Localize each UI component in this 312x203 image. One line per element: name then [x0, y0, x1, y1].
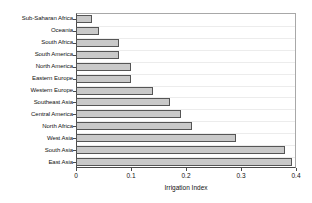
bar-row — [76, 75, 296, 83]
bar-row — [76, 87, 296, 95]
bar-row — [76, 98, 296, 106]
y-axis-label: Central America — [0, 111, 73, 118]
bar — [76, 75, 131, 83]
x-axis-tick-label: 0.3 — [226, 172, 256, 180]
y-axis-label: West Asia — [0, 135, 73, 142]
bar — [76, 134, 236, 142]
bar-row — [76, 134, 296, 142]
bar-row — [76, 51, 296, 59]
y-axis-label: South America — [0, 51, 73, 58]
bar — [76, 122, 192, 130]
x-axis-tick-label: 0.2 — [171, 172, 201, 180]
bar — [76, 110, 181, 118]
bar — [76, 51, 119, 59]
irrigation-index-bar-chart: Sub-Saharan AfricaOceaniaSouth AfricaSou… — [0, 0, 312, 203]
x-axis-tick-label: 0 — [61, 172, 91, 180]
y-axis-label: Southeast Asia — [0, 99, 73, 106]
bar — [76, 87, 153, 95]
bar — [76, 39, 119, 47]
bar-row — [76, 110, 296, 118]
bar-row — [76, 15, 296, 23]
x-axis-tick-label: 0.4 — [281, 172, 311, 180]
y-axis-label: Oceania — [0, 27, 73, 34]
y-axis-label: East Asia — [0, 159, 73, 166]
bar — [76, 98, 170, 106]
x-axis-tick — [131, 168, 132, 171]
x-axis-title: Irrigation Index — [76, 184, 296, 192]
bars-layer — [76, 13, 296, 168]
bar — [76, 63, 131, 71]
bar-row — [76, 27, 296, 35]
x-axis: Irrigation Index 00.10.20.30.4 — [0, 168, 312, 203]
bar-row — [76, 122, 296, 130]
bar-row — [76, 158, 296, 166]
y-axis-label: South Africa — [0, 39, 73, 46]
y-axis-label: North Africa — [0, 123, 73, 130]
y-axis-label: South Asia — [0, 147, 73, 154]
bar — [76, 15, 92, 23]
bar — [76, 158, 292, 166]
bar — [76, 146, 285, 154]
y-axis-category-labels: Sub-Saharan AfricaOceaniaSouth AfricaSou… — [0, 13, 73, 168]
bar — [76, 27, 99, 35]
bar-row — [76, 146, 296, 154]
x-axis-tick — [76, 168, 77, 171]
bar-row — [76, 63, 296, 71]
x-axis-tick — [241, 168, 242, 171]
y-axis-label: North America — [0, 63, 73, 70]
y-axis-label: Western Europe — [0, 87, 73, 94]
bar-row — [76, 39, 296, 47]
y-axis-label: Eastern Europe — [0, 75, 73, 82]
y-axis-label: Sub-Saharan Africa — [0, 15, 73, 22]
x-axis-tick — [186, 168, 187, 171]
x-axis-tick-label: 0.1 — [116, 172, 146, 180]
x-axis-tick — [296, 168, 297, 171]
